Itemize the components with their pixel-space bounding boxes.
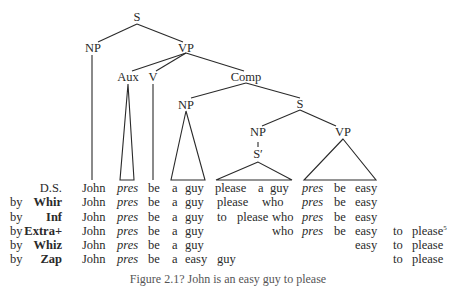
row-word: please <box>412 239 443 252</box>
row-word: please <box>412 253 443 266</box>
word-text: who <box>272 224 294 238</box>
word-text: pres <box>302 210 323 224</box>
word-text: pres <box>117 210 138 224</box>
row-word: be <box>148 225 160 238</box>
word-text: guy <box>185 195 204 209</box>
row-word: easy <box>355 196 377 209</box>
row-word: who <box>272 225 294 238</box>
word-text: pres <box>302 181 323 195</box>
word-text: easy <box>355 195 377 209</box>
word-text: who <box>272 210 294 224</box>
node-comp: Comp <box>231 71 262 84</box>
branch-vp-aux <box>132 53 186 71</box>
word-text: a <box>172 252 178 266</box>
word-text: pres <box>117 195 138 209</box>
row-word: who <box>272 211 294 224</box>
row-word: John <box>82 239 106 252</box>
branch-comp-s <box>246 83 300 98</box>
row-rule-name: Whir <box>4 196 62 209</box>
node-aux: Aux <box>117 71 139 84</box>
word-text: a <box>258 181 264 195</box>
row-word: guy <box>185 239 204 252</box>
row-word: guy <box>185 196 204 209</box>
word-text: pres <box>302 195 323 209</box>
word-text: John <box>82 238 106 252</box>
word-text: to <box>393 224 403 238</box>
row-word: guy <box>185 225 204 238</box>
node-s-prime: S′ <box>253 148 263 161</box>
word-text: please <box>412 224 443 238</box>
triangle-sprime <box>216 162 292 180</box>
row-rule-name: Whiz <box>4 239 62 252</box>
word-text: John <box>82 224 106 238</box>
word-text: be <box>148 252 160 266</box>
figure-caption: Figure 2.1? John is an easy guy to pleas… <box>0 272 456 287</box>
row-word: easy <box>355 239 377 252</box>
word-text: be <box>334 181 346 195</box>
triangle-np-comp <box>171 111 205 180</box>
row-rule-name: D.S. <box>4 182 62 195</box>
word-text: John <box>82 195 106 209</box>
row-word: to <box>393 239 403 252</box>
word-text: a <box>172 181 178 195</box>
node-vp-embedded: VP <box>335 126 351 139</box>
node-vp-main: VP <box>178 42 194 55</box>
word-text: please <box>412 252 443 266</box>
row-word: to <box>217 211 227 224</box>
row-word: be <box>148 239 160 252</box>
row-word: easy <box>355 182 377 195</box>
word-text: be <box>334 210 346 224</box>
word-text: be <box>148 181 160 195</box>
word-text: pres <box>117 224 138 238</box>
row-word: pres <box>302 196 323 209</box>
word-text: guy <box>185 181 204 195</box>
row-word: a <box>172 182 178 195</box>
row-word: John <box>82 182 106 195</box>
word-text: easy <box>185 252 207 266</box>
row-word: guy <box>270 182 289 195</box>
branch-s-np <box>98 24 137 42</box>
word-text: a <box>172 224 178 238</box>
row-word: John <box>82 253 106 266</box>
row-rule-name: Inf <box>4 211 62 224</box>
triangle-aux <box>120 84 134 180</box>
node-np-subject: NP <box>85 42 101 55</box>
node-s-embedded: S <box>297 98 304 111</box>
row-word: pres <box>302 225 323 238</box>
word-text: easy <box>355 181 377 195</box>
row-word: please <box>237 211 268 224</box>
row-word: pres <box>117 253 138 266</box>
row-word: a <box>172 211 178 224</box>
branch-comp-np <box>191 83 246 98</box>
word-text: easy <box>355 238 377 252</box>
row-word: easy <box>355 225 377 238</box>
row-word: to <box>393 253 403 266</box>
word-text: guy <box>185 238 204 252</box>
row-word: be <box>334 196 346 209</box>
word-text: John <box>82 210 106 224</box>
word-text: pres <box>117 181 138 195</box>
word-text: a <box>172 238 178 252</box>
node-np-comp: NP <box>178 99 194 112</box>
row-word: easy <box>185 253 207 266</box>
row-word: a <box>172 225 178 238</box>
word-text: be <box>334 224 346 238</box>
row-word: pres <box>117 196 138 209</box>
word-text: John <box>82 252 106 266</box>
node-np-embedded: NP <box>250 126 266 139</box>
word-text: a <box>172 210 178 224</box>
row-word: easy <box>355 211 377 224</box>
word-text: be <box>148 210 160 224</box>
word-text: a <box>172 195 178 209</box>
word-text: to <box>393 252 403 266</box>
row-word: a <box>172 253 178 266</box>
word-text: please <box>237 210 268 224</box>
footnote-marker: 5 <box>443 224 447 232</box>
row-word: guy <box>185 211 204 224</box>
node-v: V <box>148 71 157 84</box>
branch-s-vp-embedded <box>300 110 336 126</box>
branch-vp-comp <box>186 53 244 71</box>
row-word: please5 <box>412 225 447 238</box>
